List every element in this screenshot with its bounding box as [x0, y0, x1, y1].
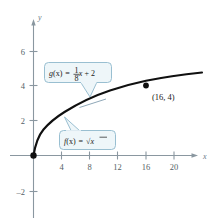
- x-tick-label-4: 4: [59, 162, 64, 172]
- f-callout-text: f(x)=√x: [64, 137, 94, 146]
- y-tick-label-6: 6: [21, 47, 25, 57]
- g-callout-arg: (x): [53, 69, 63, 78]
- sqrt-curve: [34, 73, 203, 156]
- x-tick-label-12: 12: [113, 162, 122, 172]
- x-tick-labels: 4 8 12 16 20: [59, 162, 178, 172]
- y-tick-label-4: 4: [21, 81, 26, 91]
- y-axis-arrowhead: [31, 19, 35, 26]
- x-axis-name: x: [202, 152, 207, 161]
- y-tick-labels: 6 4 2 –2: [16, 47, 26, 197]
- g-callout-constant: 2: [91, 69, 95, 78]
- x-tick-label-8: 8: [87, 162, 91, 172]
- x-tick-label-16: 16: [142, 162, 151, 172]
- graph-figure: 4 8 12 16 20 6 4 2 –2 y x (16, 4) g(x)=x…: [0, 0, 215, 221]
- point-16-4: [143, 83, 149, 89]
- g-callout: g(x)=x+2 1 8: [45, 63, 112, 98]
- f-callout: f(x)=√x: [60, 117, 116, 150]
- x-axis-arrowhead: [192, 153, 199, 157]
- g-callout-equals: =: [65, 69, 70, 78]
- y-tick-label-neg-2: –2: [16, 187, 26, 197]
- y-tick-label-2: 2: [21, 116, 25, 126]
- g-callout-operator: +: [84, 69, 89, 78]
- g-callout-denominator: 8: [75, 74, 79, 83]
- y-axis-name: y: [37, 13, 42, 22]
- f-callout-arg: (x): [66, 137, 76, 146]
- f-callout-var: x: [89, 137, 94, 146]
- origin-point: [30, 152, 36, 158]
- f-callout-equals: =: [79, 137, 84, 146]
- axes-group: [10, 19, 198, 218]
- point-16-4-label: (16, 4): [152, 92, 175, 102]
- x-tick-label-20: 20: [170, 162, 179, 172]
- g-callout-leader: [81, 82, 98, 97]
- g-callout-var: x: [78, 69, 83, 78]
